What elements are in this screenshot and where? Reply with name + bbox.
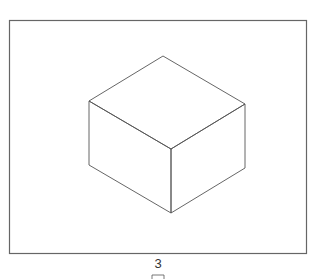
- cube-right-face: [171, 104, 245, 213]
- page-number: 3: [146, 256, 170, 271]
- page-marker-bracket: [152, 275, 164, 279]
- cube-top-face: [89, 56, 245, 149]
- cube-left-face: [89, 101, 171, 213]
- drawing-frame: [10, 21, 307, 254]
- diagram-canvas: [0, 0, 316, 280]
- isometric-cube: [89, 56, 245, 213]
